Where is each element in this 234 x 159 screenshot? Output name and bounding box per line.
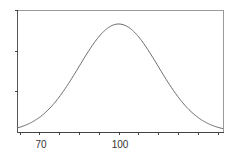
density-curve bbox=[17, 24, 223, 129]
x-tick-label-70: 70 bbox=[35, 139, 47, 150]
bell-curve-chart: 70 100 bbox=[0, 0, 234, 159]
plot-frame bbox=[18, 11, 224, 133]
x-tick-label-100: 100 bbox=[112, 139, 129, 150]
